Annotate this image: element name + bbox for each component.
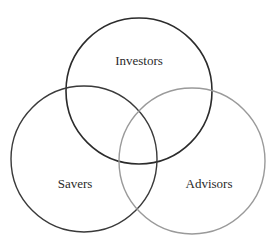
- investors-circle: [66, 18, 212, 164]
- venn-diagram: Investors Savers Advisors: [0, 0, 275, 245]
- savers-label: Savers: [58, 176, 93, 191]
- advisors-label: Advisors: [186, 176, 233, 191]
- investors-label: Investors: [115, 53, 163, 68]
- savers-circle: [11, 86, 157, 232]
- advisors-circle: [119, 88, 265, 234]
